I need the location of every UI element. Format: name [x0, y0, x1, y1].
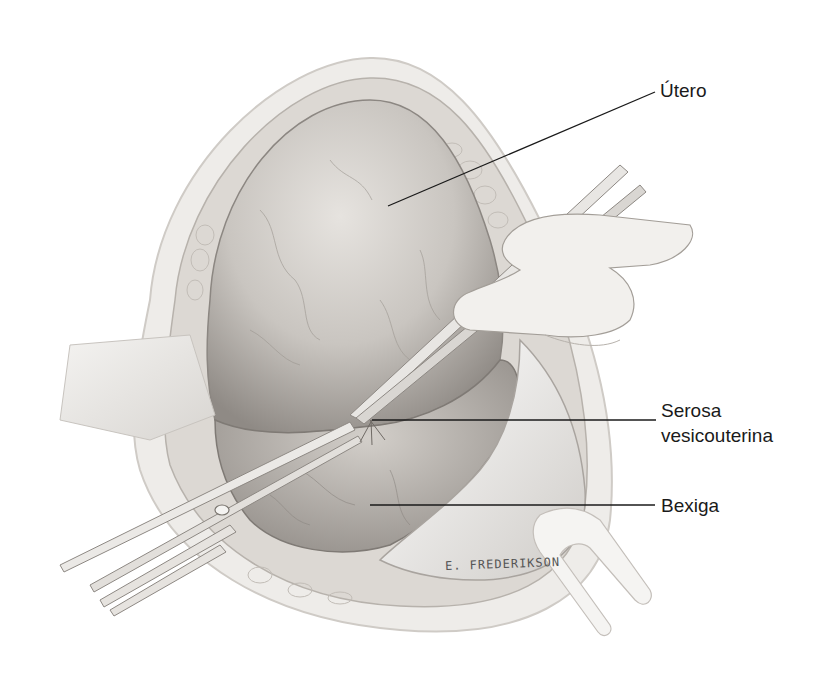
left-drape — [60, 335, 215, 440]
scissors-pivot — [215, 505, 229, 515]
surgical-illustration: Útero Serosa vesicouterina Bexiga E. FRE… — [0, 0, 833, 684]
label-utero: Útero — [660, 80, 706, 102]
illustration-drawing — [0, 0, 833, 684]
label-serosa-line2: vesicouterina — [661, 425, 773, 447]
label-serosa-line1: Serosa — [661, 400, 721, 422]
label-bexiga: Bexiga — [661, 495, 719, 517]
